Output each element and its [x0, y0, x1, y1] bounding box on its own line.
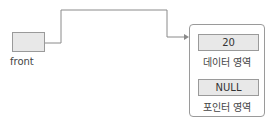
- link-caption: 포인터 영역: [190, 99, 264, 114]
- data-field: 20: [198, 34, 259, 51]
- data-caption: 데이터 영역: [190, 54, 264, 69]
- front-pointer-box: [12, 32, 45, 52]
- link-field: NULL: [198, 79, 259, 96]
- list-node: 20 데이터 영역 NULL 포인터 영역: [189, 24, 265, 117]
- front-label: front: [10, 56, 34, 67]
